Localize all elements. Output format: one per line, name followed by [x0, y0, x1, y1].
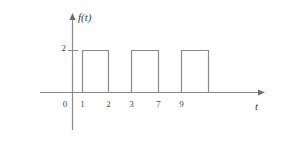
axes [40, 13, 265, 130]
x-tick-label-3: 3 [125, 100, 139, 109]
x-tick-label-1: 1 [76, 100, 90, 109]
x-tick-label-0: 0 [58, 100, 72, 109]
pulse-2 [132, 51, 159, 93]
figure-container: f(t) t 2 0 1 2 3 7 9 [0, 0, 281, 151]
x-tick-label-7: 7 [152, 100, 166, 109]
x-tick-label-9: 9 [175, 100, 189, 109]
y-axis-arrowhead [69, 13, 75, 20]
x-tick-label-2: 2 [102, 100, 116, 109]
x-tick-marks [83, 86, 209, 93]
pulse-1 [83, 51, 109, 93]
x-axis-label: t [255, 101, 258, 112]
y-tick-label-2: 2 [56, 44, 66, 53]
pulse-3 [182, 51, 209, 93]
square-wave-plot [0, 0, 281, 151]
x-axis-arrowhead [258, 89, 265, 95]
pulse-waveform [83, 51, 209, 93]
y-axis-label: f(t) [78, 12, 91, 23]
